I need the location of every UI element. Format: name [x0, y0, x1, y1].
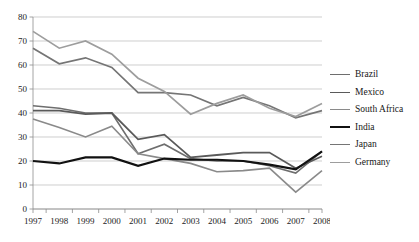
legend-item-india[interactable]: India [330, 119, 419, 137]
y-axis-tick-label: 20 [18, 156, 28, 166]
chart-canvas: 0102030405060708019971998199920002001200… [0, 0, 330, 242]
legend-label: Germany [355, 158, 390, 168]
plot-area: 0102030405060708019971998199920002001200… [0, 0, 330, 242]
x-axis-tick-label: 2002 [155, 216, 173, 226]
y-axis-tick-label: 80 [18, 12, 28, 22]
x-axis-tick-label: 1998 [50, 216, 69, 226]
y-axis-tick-label: 70 [18, 36, 28, 46]
y-axis-tick-label: 40 [18, 108, 28, 118]
legend-label: Brazil [355, 70, 378, 80]
legend-swatch-line-icon [330, 162, 350, 163]
x-axis-tick-label: 2005 [234, 216, 253, 226]
x-axis-tick-label: 2003 [182, 216, 201, 226]
series-line-brazil [33, 106, 322, 173]
legend-item-south-africa[interactable]: South Africa [330, 101, 419, 119]
legend-swatch-line-icon [330, 92, 350, 93]
x-axis-tick-label: 2000 [103, 216, 122, 226]
legend-item-mexico[interactable]: Mexico [330, 84, 419, 102]
y-axis-tick-label: 30 [18, 132, 28, 142]
chart-legend: BrazilMexicoSouth AfricaIndiaJapanGerman… [330, 66, 419, 171]
legend-swatch-line-icon [330, 74, 350, 75]
y-axis-tick-label: 10 [18, 180, 28, 190]
legend-item-japan[interactable]: Japan [330, 136, 419, 154]
y-axis-tick-label: 50 [18, 84, 28, 94]
legend-swatch-line-icon [330, 109, 350, 110]
line-chart: 0102030405060708019971998199920002001200… [0, 0, 419, 242]
series-line-japan [33, 48, 322, 118]
x-axis-tick-label: 1997 [24, 216, 43, 226]
x-axis-tick-label: 2007 [287, 216, 306, 226]
y-axis-tick-label: 60 [18, 60, 28, 70]
series-line-south-africa [33, 119, 322, 192]
legend-label: India [355, 123, 375, 133]
legend-swatch-line-icon [330, 126, 350, 128]
x-axis-tick-label: 2008 [313, 216, 330, 226]
x-axis-tick-label: 2004 [208, 216, 227, 226]
legend-label: Japan [355, 140, 377, 150]
x-axis-tick-label: 1999 [77, 216, 96, 226]
x-axis-tick-label: 2001 [129, 216, 147, 226]
legend-label: Mexico [355, 88, 384, 98]
legend-label: South Africa [355, 105, 403, 115]
x-axis-tick-label: 2006 [260, 216, 279, 226]
y-axis-tick-label: 0 [23, 204, 28, 214]
legend-swatch-line-icon [330, 144, 350, 145]
series-line-germany [33, 31, 322, 116]
legend-item-brazil[interactable]: Brazil [330, 66, 419, 84]
legend-item-germany[interactable]: Germany [330, 154, 419, 172]
